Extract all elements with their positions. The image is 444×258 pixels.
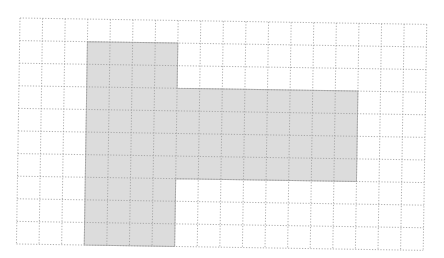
dotted-grid	[16, 18, 426, 250]
grid-diagram	[0, 0, 444, 258]
grid-canvas	[0, 0, 444, 258]
grid-line-horizontal	[16, 244, 423, 250]
grid-line-horizontal	[17, 221, 424, 227]
